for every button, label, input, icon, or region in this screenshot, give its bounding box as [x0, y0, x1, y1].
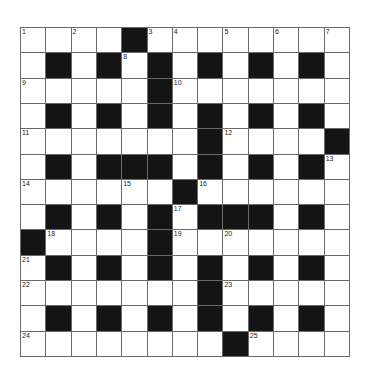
grid-cell[interactable] [298, 27, 323, 52]
grid-cell[interactable] [45, 179, 70, 204]
grid-cell[interactable]: 17 [172, 204, 197, 229]
grid-cell[interactable] [324, 179, 349, 204]
grid-cell[interactable] [273, 52, 298, 77]
grid-cell[interactable] [147, 128, 172, 153]
grid-cell[interactable] [248, 179, 273, 204]
grid-cell[interactable]: 2 [71, 27, 96, 52]
grid-cell[interactable] [71, 255, 96, 280]
grid-cell[interactable] [197, 78, 222, 103]
grid-cell[interactable] [298, 78, 323, 103]
grid-cell[interactable] [222, 154, 247, 179]
grid-cell[interactable] [45, 27, 70, 52]
grid-cell[interactable] [172, 154, 197, 179]
grid-cell[interactable] [172, 280, 197, 305]
grid-cell[interactable]: 9 [20, 78, 45, 103]
grid-cell[interactable]: 5 [222, 27, 247, 52]
grid-cell[interactable] [71, 179, 96, 204]
grid-cell[interactable] [273, 280, 298, 305]
grid-cell[interactable] [71, 103, 96, 128]
grid-cell[interactable] [71, 154, 96, 179]
grid-cell[interactable]: 6 [273, 27, 298, 52]
grid-cell[interactable] [147, 280, 172, 305]
grid-cell[interactable]: 25 [248, 331, 273, 356]
grid-cell[interactable] [222, 103, 247, 128]
grid-cell[interactable] [324, 78, 349, 103]
grid-cell[interactable]: 1 [20, 27, 45, 52]
grid-cell[interactable] [248, 27, 273, 52]
grid-cell[interactable] [71, 229, 96, 254]
grid-cell[interactable] [96, 78, 121, 103]
grid-cell[interactable] [172, 52, 197, 77]
grid-cell[interactable] [147, 179, 172, 204]
grid-cell[interactable] [71, 78, 96, 103]
grid-cell[interactable]: 24 [20, 331, 45, 356]
grid-cell[interactable] [172, 331, 197, 356]
grid-cell[interactable] [273, 154, 298, 179]
grid-cell[interactable] [96, 128, 121, 153]
grid-cell[interactable]: 20 [222, 229, 247, 254]
grid-cell[interactable] [121, 128, 146, 153]
grid-cell[interactable] [248, 78, 273, 103]
grid-cell[interactable]: 22 [20, 280, 45, 305]
grid-cell[interactable] [71, 305, 96, 330]
grid-cell[interactable]: 10 [172, 78, 197, 103]
grid-cell[interactable] [147, 331, 172, 356]
grid-cell[interactable] [172, 255, 197, 280]
grid-cell[interactable] [248, 280, 273, 305]
grid-cell[interactable]: 23 [222, 280, 247, 305]
grid-cell[interactable] [20, 103, 45, 128]
grid-cell[interactable] [273, 78, 298, 103]
grid-cell[interactable] [45, 128, 70, 153]
grid-cell[interactable] [96, 27, 121, 52]
grid-cell[interactable] [121, 305, 146, 330]
grid-cell[interactable] [324, 280, 349, 305]
grid-cell[interactable] [71, 128, 96, 153]
grid-cell[interactable] [20, 52, 45, 77]
grid-cell[interactable] [96, 179, 121, 204]
grid-cell[interactable] [96, 331, 121, 356]
grid-cell[interactable] [273, 128, 298, 153]
grid-cell[interactable] [121, 255, 146, 280]
grid-cell[interactable]: 4 [172, 27, 197, 52]
grid-cell[interactable] [222, 255, 247, 280]
grid-cell[interactable] [324, 103, 349, 128]
grid-cell[interactable] [20, 154, 45, 179]
grid-cell[interactable] [172, 103, 197, 128]
grid-cell[interactable] [298, 229, 323, 254]
grid-cell[interactable] [324, 331, 349, 356]
grid-cell[interactable] [273, 255, 298, 280]
grid-cell[interactable] [121, 204, 146, 229]
grid-cell[interactable] [197, 229, 222, 254]
grid-cell[interactable] [20, 204, 45, 229]
grid-cell[interactable] [273, 103, 298, 128]
grid-cell[interactable] [324, 255, 349, 280]
grid-cell[interactable] [298, 280, 323, 305]
grid-cell[interactable] [222, 78, 247, 103]
grid-cell[interactable] [324, 52, 349, 77]
grid-cell[interactable] [71, 204, 96, 229]
grid-cell[interactable] [324, 229, 349, 254]
grid-cell[interactable] [273, 305, 298, 330]
grid-cell[interactable] [248, 128, 273, 153]
grid-cell[interactable] [324, 204, 349, 229]
grid-cell[interactable] [222, 179, 247, 204]
grid-cell[interactable]: 13 [324, 154, 349, 179]
grid-cell[interactable] [45, 78, 70, 103]
grid-cell[interactable] [273, 331, 298, 356]
grid-cell[interactable] [71, 280, 96, 305]
grid-cell[interactable] [273, 229, 298, 254]
grid-cell[interactable] [172, 128, 197, 153]
grid-cell[interactable]: 8 [121, 52, 146, 77]
grid-cell[interactable] [197, 27, 222, 52]
grid-cell[interactable] [298, 331, 323, 356]
grid-cell[interactable] [71, 52, 96, 77]
grid-cell[interactable] [121, 229, 146, 254]
grid-cell[interactable] [222, 305, 247, 330]
grid-cell[interactable] [273, 204, 298, 229]
grid-cell[interactable] [121, 280, 146, 305]
grid-cell[interactable] [96, 229, 121, 254]
grid-cell[interactable] [121, 331, 146, 356]
grid-cell[interactable] [96, 280, 121, 305]
grid-cell[interactable]: 19 [172, 229, 197, 254]
grid-cell[interactable] [298, 179, 323, 204]
